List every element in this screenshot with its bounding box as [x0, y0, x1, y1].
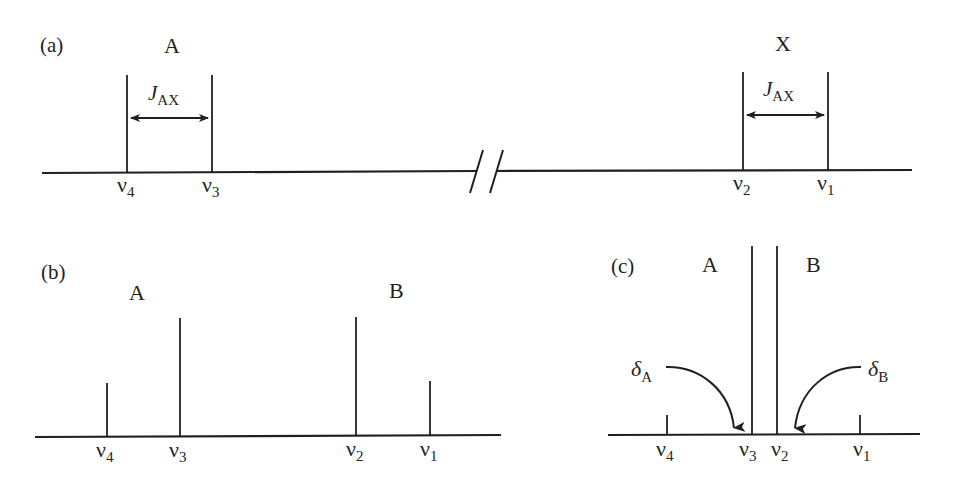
panel-c-freq-label-nu4: ν4	[656, 436, 674, 464]
panel-b-freq-label-nu4: ν4	[96, 437, 114, 465]
panel-c-freq-label-nu1: ν1	[853, 436, 870, 464]
panel-c-baseline	[608, 434, 920, 435]
panel-c-freq-label-nu3: ν3	[739, 436, 756, 464]
panel-b-nucleus-a-label: A	[129, 280, 145, 305]
panel-a-coupling-label-a: JAX	[148, 81, 179, 108]
panel-b-freq-label-nu1: ν1	[420, 436, 437, 464]
panel-a-label: (a)	[40, 33, 63, 57]
panel-c-shift-label-a: δA	[631, 356, 652, 385]
panel-c-nucleus-a-label: A	[702, 252, 718, 277]
panel-c-nucleus-b-label: B	[806, 252, 821, 277]
panel-c-shift-arrow-b	[795, 367, 861, 428]
panel-c-shift-arrow-a	[666, 367, 734, 428]
panel-b-freq-label-nu3: ν3	[169, 437, 186, 465]
panel-a-nucleus-x-label: X	[775, 31, 791, 56]
panel-a-freq-label-nu1: ν1	[817, 170, 834, 198]
panel-a-freq-label-nu2: ν2	[733, 170, 750, 198]
panel-a-nucleus-a-label: A	[164, 33, 180, 58]
panel-c-freq-label-nu2: ν2	[771, 436, 788, 464]
panel-b-label: (b)	[41, 260, 66, 284]
panel-a-freq-label-nu4: ν4	[117, 172, 135, 200]
panel-a-freq-label-nu3: ν3	[202, 172, 219, 200]
panel-c-label: (c)	[611, 254, 634, 278]
panel-b-freq-label-nu2: ν2	[346, 436, 363, 464]
panel-a-coupling-label-x: JAX	[763, 77, 794, 104]
nmr-spectra-figure: (a) A X JAX JAX ν4 ν3 ν2 ν1 (b) A B ν4	[0, 0, 959, 500]
panel-a-baseline-right	[497, 170, 912, 171]
panel-b: (b) A B ν4 ν3 ν2 ν1	[35, 260, 501, 465]
panel-c-shift-label-b: δB	[868, 356, 888, 385]
panel-c: (c) A B δA δB ν4 ν3 ν2 ν1	[608, 246, 920, 464]
panel-a-baseline-left	[42, 171, 477, 173]
panel-a: (a) A X JAX JAX ν4 ν3 ν2 ν1	[40, 31, 912, 200]
panel-b-nucleus-b-label: B	[389, 278, 404, 303]
